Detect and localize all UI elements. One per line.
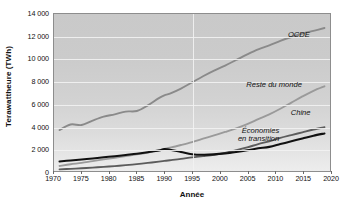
- series-label-economies-line2: en transition: [238, 135, 279, 144]
- y-tick-label: 14 000: [28, 9, 49, 18]
- x-tick-label: 1980: [101, 174, 117, 183]
- x-tick-label: 2000: [212, 174, 228, 183]
- series-line-chine: [60, 127, 325, 169]
- x-tick-label: 2020: [323, 174, 339, 183]
- x-tick-label: 1990: [156, 174, 172, 183]
- gridline-horizontal: [54, 59, 330, 60]
- series-label-reste-du-monde: Reste du monde: [246, 81, 302, 90]
- gridline-horizontal: [54, 128, 330, 129]
- gridline-horizontal: [54, 105, 330, 106]
- x-tick-label: 1985: [129, 174, 145, 183]
- y-axis-title-text: Terawattheure (TWh): [4, 46, 13, 127]
- y-tick-label: 6 000: [32, 99, 50, 108]
- chart-figure: Terawattheure (TWh) 02 0004 0006 0008 00…: [0, 0, 343, 211]
- y-tick-label: 4 000: [32, 122, 50, 131]
- y-tick-label: 2 000: [32, 145, 50, 154]
- x-tick-label: 1975: [73, 174, 89, 183]
- y-tick-label: 8 000: [32, 77, 50, 86]
- y-tick-label: 10 000: [28, 54, 49, 63]
- series-label-economies-en-transition: Économies en transition: [238, 127, 279, 144]
- gridline-vertical: [193, 14, 194, 171]
- y-tick-label: 12 000: [28, 31, 49, 40]
- x-axis-tick-labels: 1970197519801985199019952000200520102015…: [53, 174, 331, 186]
- y-axis-tick-labels: 02 0004 0006 0008 00010 00012 00014 000: [14, 13, 51, 172]
- series-label-chine: Chine: [291, 109, 311, 118]
- series-label-ocde: OCDE: [288, 31, 310, 40]
- x-tick-label: 2010: [268, 174, 284, 183]
- x-axis-title: Année: [53, 190, 331, 199]
- x-tick-label: 1970: [45, 174, 61, 183]
- gridline-horizontal: [54, 150, 330, 151]
- x-tick-label: 1995: [184, 174, 200, 183]
- x-tick-label: 2005: [240, 174, 256, 183]
- x-tick-label: 2015: [295, 174, 311, 183]
